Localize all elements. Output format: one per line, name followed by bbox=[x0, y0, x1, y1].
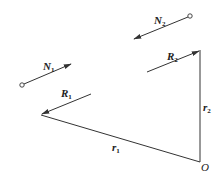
vector-r1-force: R1 bbox=[42, 87, 91, 114]
vector-diagram: N2 N1 R2 R1 r2 r1 O bbox=[0, 0, 223, 180]
label-n2: N2 bbox=[153, 14, 166, 28]
label-r1: r1 bbox=[112, 141, 120, 155]
label-n1: N1 bbox=[42, 60, 55, 74]
n1-tail-circle-icon bbox=[20, 83, 24, 87]
vector-n1: N1 bbox=[20, 60, 71, 87]
label-r2: r2 bbox=[203, 101, 211, 115]
r1-line bbox=[41, 115, 200, 162]
label-origin-o: O bbox=[201, 161, 209, 173]
segment-r1: r1 bbox=[41, 115, 200, 162]
label-R1: R1 bbox=[60, 87, 72, 101]
vector-n2: N2 bbox=[134, 14, 192, 39]
label-R2: R2 bbox=[166, 50, 178, 64]
segment-r2: r2 bbox=[200, 50, 211, 162]
n2-tail-circle-icon bbox=[188, 14, 192, 18]
vector-r2-force: R2 bbox=[147, 50, 199, 72]
